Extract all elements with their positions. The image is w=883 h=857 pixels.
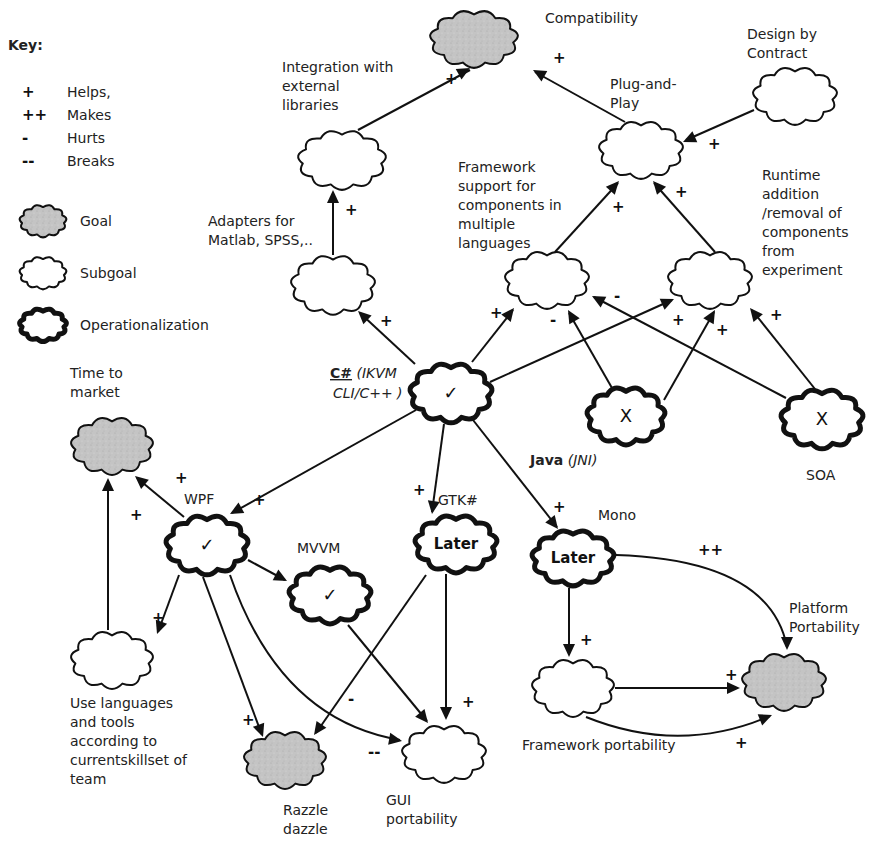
contribution-sign: + [708, 135, 721, 153]
subgoal-cloud-icon [291, 256, 375, 315]
key-oper-label: Operationalization [80, 317, 209, 333]
goal-cloud-icon [244, 732, 326, 789]
key-contribution-label: Breaks [67, 153, 115, 169]
goal-cloud-icon [71, 418, 153, 475]
node-plat [742, 654, 826, 711]
arrowhead-icon [440, 707, 452, 720]
key-symbol: -- [22, 152, 34, 170]
arrowhead-icon [648, 177, 666, 195]
node-label: Adapters forMatlab, SPSS,.. [208, 213, 313, 248]
contribution-sign: + [553, 49, 566, 67]
node-label: Framework portability [522, 737, 676, 753]
arrowhead-icon [563, 307, 580, 324]
arrowhead-icon [589, 291, 606, 308]
key-oper-cloud-icon [20, 309, 67, 341]
goal-cloud-icon [742, 654, 826, 711]
subgoal-cloud-icon [505, 252, 589, 309]
status-mark: Later [551, 549, 596, 567]
contribution-edge [248, 560, 290, 586]
contribution-edge: + [203, 577, 269, 739]
node-fsc [505, 252, 589, 309]
key-contribution-label: Helps, [67, 84, 111, 100]
node-compat [430, 11, 518, 68]
node-label: WPF [184, 491, 214, 507]
contribution-sign: + [413, 481, 426, 499]
arrowhead-icon [273, 570, 290, 587]
subgoal-cloud-icon [753, 68, 837, 125]
node-plug [599, 122, 683, 179]
contribution-edge: + [473, 420, 566, 533]
edge-line [586, 716, 770, 736]
contribution-sign: + [380, 312, 393, 330]
contribution-edge: + [472, 304, 519, 362]
arrowhead-icon [758, 709, 775, 725]
node-label: GUIportability [386, 792, 458, 827]
contribution-edge: + [563, 588, 593, 657]
legend-key: Key:+Helps,++Makes-Hurts--BreaksGoalSubg… [8, 37, 209, 341]
arrowhead-icon [327, 190, 339, 203]
contribution-sign: ++ [698, 541, 723, 559]
contribution-sign: + [175, 469, 188, 487]
arrowhead-icon [388, 733, 403, 747]
node-integ [298, 131, 386, 190]
node-adapt [291, 256, 375, 315]
node-label: Razzledazzle [283, 802, 328, 837]
node-gtk: Later [415, 516, 497, 573]
contribution-edge: + [681, 110, 754, 153]
arrowhead-icon [415, 709, 433, 727]
contribution-edge: - [550, 307, 612, 388]
contribution-sign: + [770, 306, 783, 324]
edge-line [752, 310, 815, 389]
contribution-edge: + [555, 177, 625, 252]
contribution-edge: + [102, 478, 143, 630]
key-subgoal-label: Subgoal [80, 265, 137, 281]
contribution-sign: + [675, 183, 688, 201]
subgoal-cloud-icon [532, 660, 614, 717]
arrowhead-icon [227, 502, 244, 519]
goal-model-diagram: Key:+Helps,++Makes-Hurts--BreaksGoalSubg… [0, 0, 883, 857]
node-label: Design byContract [747, 26, 817, 61]
denied-x-icon: X [816, 408, 828, 429]
arrowhead-icon [781, 637, 793, 650]
node-soa: X [781, 390, 863, 449]
node-mvvm: ✓ [289, 567, 371, 624]
checkmark-icon: ✓ [322, 584, 337, 605]
contribution-sign: + [445, 70, 458, 88]
subgoal-cloud-icon [402, 726, 486, 783]
node-label: SOA [806, 467, 836, 483]
key-goal-cloud-icon [20, 205, 67, 237]
operationalization-label: Java (JNI) [529, 452, 597, 468]
subgoal-cloud-icon [599, 122, 683, 179]
key-title: Key: [8, 37, 43, 53]
contribution-sign: + [612, 198, 625, 216]
node-label: GTK# [438, 492, 478, 508]
operationalization-label: C# (IKVM [330, 365, 397, 381]
contribution-sign: + [130, 506, 143, 524]
contribution-sign: + [152, 609, 165, 627]
contribution-edge: ++ [616, 541, 793, 650]
edge-line [569, 313, 612, 388]
key-contribution-label: Hurts [67, 130, 105, 146]
contribution-sign: + [462, 693, 475, 711]
contribution-sign: + [242, 711, 255, 729]
edge-line [348, 625, 427, 721]
node-ttm [71, 418, 153, 475]
node-razzle [244, 732, 326, 789]
subgoal-cloud-icon [668, 252, 752, 309]
node-gui [402, 726, 486, 783]
key-goal-label: Goal [80, 213, 112, 229]
contribution-edge: + [648, 177, 715, 252]
contribution-edge: + [354, 307, 415, 364]
edge-line [616, 555, 787, 647]
contribution-sign: - [550, 311, 556, 329]
node-label: Frameworksupport forcomponents inmultipl… [458, 159, 562, 251]
labels-layer: CompatibilityIntegration withexternallib… [69, 10, 860, 837]
node-label: Mono [598, 507, 636, 523]
node-csharp: ✓ [410, 364, 492, 423]
contribution-edge: + [615, 666, 740, 694]
status-mark: Later [434, 535, 479, 553]
denied-x-icon: X [620, 405, 632, 426]
arrowhead-icon [563, 644, 575, 657]
nodes-layer: ✓XX✓Later✓Later [71, 11, 863, 789]
subgoal-cloud-icon [71, 632, 153, 689]
